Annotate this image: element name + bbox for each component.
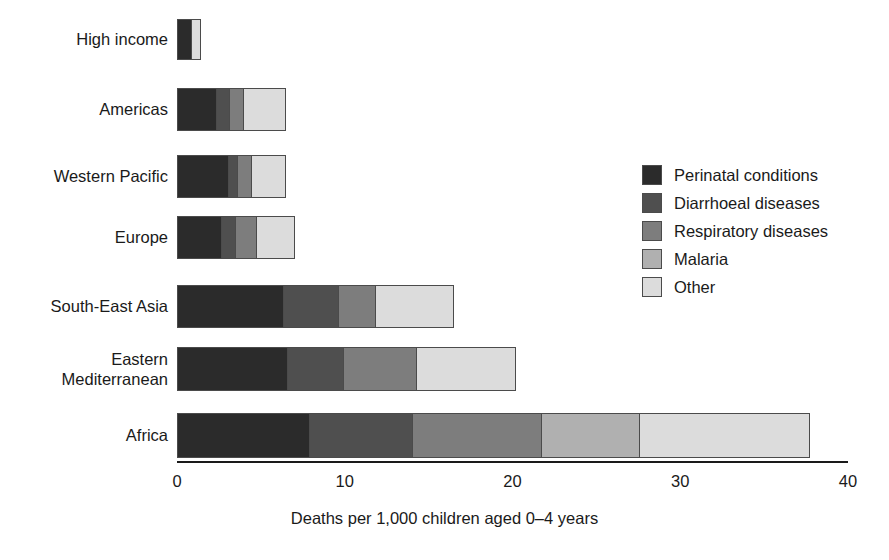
bar-segment	[177, 413, 310, 458]
x-tick-label: 10	[336, 472, 354, 491]
bar-europe	[177, 216, 298, 259]
bar-segment	[221, 216, 236, 259]
bar-segment	[177, 88, 217, 131]
category-label: Europe	[115, 228, 168, 248]
legend-item[interactable]: Other	[642, 273, 828, 301]
x-tick-label: 20	[503, 472, 521, 491]
bar-segment	[216, 88, 229, 131]
x-tick-label: 30	[671, 472, 689, 491]
legend-item[interactable]: Malaria	[642, 245, 828, 273]
bar-segment	[256, 216, 295, 259]
bar-segment	[191, 19, 201, 60]
category-label: Americas	[99, 100, 168, 120]
legend-item[interactable]: Respiratory diseases	[642, 217, 828, 245]
bar-segment	[412, 413, 543, 458]
legend-label: Malaria	[674, 250, 728, 269]
legend-label: Diarrhoeal diseases	[674, 194, 820, 213]
legend-swatch-icon	[642, 193, 662, 213]
bar-segment	[177, 216, 222, 259]
category-label: High income	[76, 30, 168, 50]
x-axis-title: Deaths per 1,000 children aged 0–4 years	[0, 509, 889, 528]
bar-segment	[287, 347, 344, 391]
bar-high-income	[177, 19, 202, 60]
bar-segment	[229, 88, 244, 131]
x-tick-label: 0	[172, 472, 181, 491]
bar-segment	[283, 285, 338, 328]
legend-label: Perinatal conditions	[674, 166, 818, 185]
legend-item[interactable]: Diarrhoeal diseases	[642, 189, 828, 217]
bar-segment	[177, 347, 288, 391]
bar-segment	[338, 285, 377, 328]
bar-eastern-mediterranean	[177, 347, 519, 391]
bar-segment	[416, 347, 517, 391]
bar-segment	[375, 285, 454, 328]
legend-item[interactable]: Perinatal conditions	[642, 161, 828, 189]
legend-swatch-icon	[642, 277, 662, 297]
legend-swatch-icon	[642, 165, 662, 185]
bar-segment	[177, 155, 229, 198]
bar-africa	[177, 413, 814, 458]
bar-chart: High incomeAmericasWestern PacificEurope…	[0, 0, 889, 560]
bar-segment	[343, 347, 417, 391]
legend-label: Other	[674, 278, 715, 297]
x-tick-label: 40	[839, 472, 857, 491]
bar-segment	[251, 155, 286, 198]
category-label: Western Pacific	[54, 167, 168, 187]
category-label: Africa	[126, 426, 168, 446]
category-label: Eastern Mediterranean	[62, 350, 168, 389]
bar-americas	[177, 88, 289, 131]
bar-south-east-asia	[177, 285, 457, 328]
x-axis-line	[177, 461, 848, 463]
bar-segment	[309, 413, 413, 458]
bar-segment	[235, 216, 257, 259]
bar-segment	[177, 285, 284, 328]
legend-swatch-icon	[642, 221, 662, 241]
bar-segment	[177, 19, 192, 60]
bar-segment	[243, 88, 287, 131]
category-label: South-East Asia	[51, 297, 168, 317]
bar-segment	[237, 155, 252, 198]
legend-label: Respiratory diseases	[674, 222, 828, 241]
bar-segment	[541, 413, 640, 458]
bar-segment	[639, 413, 810, 458]
legend-swatch-icon	[642, 249, 662, 269]
bar-western-pacific	[177, 155, 289, 198]
legend: Perinatal conditionsDiarrhoeal diseasesR…	[642, 161, 828, 301]
